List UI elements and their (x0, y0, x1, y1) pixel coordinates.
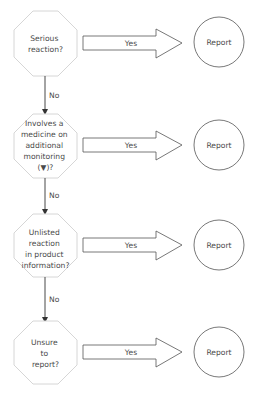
decision-octagon (14, 11, 77, 76)
yes-label: Yes (124, 141, 137, 150)
report-label: Report (206, 241, 231, 250)
step-4: Unsure to report? Yes Report (14, 321, 244, 384)
report-label: Report (206, 38, 231, 47)
flowchart: Serious reaction? Yes Report No Involves… (0, 0, 258, 396)
yes-label: Yes (124, 348, 137, 357)
report-label: Report (206, 348, 231, 357)
no-label: No (49, 91, 60, 100)
report-label: Report (206, 141, 231, 150)
step-1: Serious reaction? Yes Report No (14, 11, 244, 112)
yes-label: Yes (124, 39, 137, 48)
step-3: Unlisted reaction in product information… (14, 214, 244, 320)
step-2: Involves a medicine on additional monito… (14, 114, 244, 212)
no-label: No (49, 295, 60, 304)
yes-label: Yes (124, 241, 137, 250)
no-label: No (49, 191, 60, 200)
